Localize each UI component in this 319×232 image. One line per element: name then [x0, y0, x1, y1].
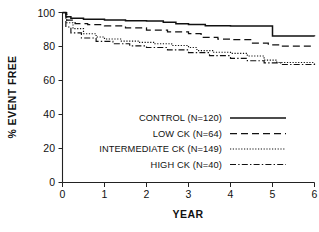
y-tick-label-80: 80: [43, 40, 55, 52]
x-axis-title: YEAR: [173, 208, 204, 220]
legend-label-1: LOW CK (N=64): [153, 129, 222, 139]
curve-high-ck: [63, 13, 315, 66]
x-tick-label-4: 4: [228, 188, 234, 200]
y-tick-label-60: 60: [43, 74, 55, 86]
y-axis-title: % EVENT FREE: [6, 56, 18, 139]
x-tick-label-0: 0: [60, 188, 66, 200]
curve-low-ck: [63, 13, 315, 47]
y-tick-label-40: 40: [43, 108, 55, 120]
curve-intermediate-ck: [63, 13, 315, 64]
axes: [63, 13, 315, 183]
x-axis-ticks: 0 1 2 3 4 5 6: [60, 183, 318, 201]
x-tick-label-1: 1: [102, 188, 108, 200]
x-tick-label-5: 5: [270, 188, 276, 200]
x-tick-label-3: 3: [186, 188, 192, 200]
x-tick-label-2: 2: [144, 188, 150, 200]
legend-label-3: HIGH CK (N=40): [151, 160, 222, 170]
y-axis-ticks: 0 20 40 60 80 100: [37, 7, 62, 189]
y-tick-label-20: 20: [43, 142, 55, 154]
x-tick-label-6: 6: [312, 188, 318, 200]
legend-label-0: CONTROL (N=120): [139, 113, 222, 123]
y-tick-label-0: 0: [49, 176, 55, 188]
chart-legend: CONTROL (N=120)LOW CK (N=64)INTERMEDIATE…: [99, 113, 286, 169]
kaplan-meier-chart: 0 20 40 60 80 100 0 1 2 3 4 5 6 YEAR % E…: [0, 0, 319, 232]
survival-curves: [63, 13, 315, 66]
legend-label-2: INTERMEDIATE CK (N=149): [99, 144, 222, 154]
y-tick-label-100: 100: [37, 7, 55, 19]
chart-canvas: 0 20 40 60 80 100 0 1 2 3 4 5 6 YEAR % E…: [0, 0, 319, 232]
